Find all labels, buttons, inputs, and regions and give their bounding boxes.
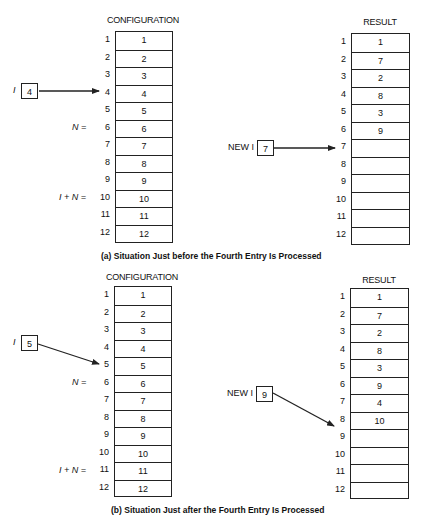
row-index: 10 xyxy=(93,444,109,462)
array-cell: 1 xyxy=(116,32,172,50)
pointer-new-i-box: 7 xyxy=(257,140,274,156)
array-cell: 8 xyxy=(352,87,409,105)
row-index: 6 xyxy=(329,376,345,394)
row-index: 3 xyxy=(329,323,345,341)
array-cell: 6 xyxy=(116,120,172,138)
array-cell: 10 xyxy=(115,445,171,463)
result-array: 1 7 2 8 3 9 xyxy=(351,33,410,245)
array-cell: 1 xyxy=(351,289,408,307)
array-cell: 2 xyxy=(351,324,408,342)
row-index: 6 xyxy=(94,119,110,137)
array-cell xyxy=(351,447,408,465)
row-index: 4 xyxy=(329,341,345,359)
arrow-i-b xyxy=(38,344,99,364)
n-marker: N = xyxy=(72,377,86,387)
array-cell xyxy=(352,174,409,192)
array-cell: 9 xyxy=(351,377,408,395)
array-cell: 6 xyxy=(115,375,171,393)
array-cell: 8 xyxy=(351,342,408,360)
array-cell: 4 xyxy=(115,340,171,358)
row-index: 7 xyxy=(93,391,109,409)
array-cell: 11 xyxy=(115,462,171,480)
array-cell: 2 xyxy=(115,305,171,323)
row-index: 12 xyxy=(329,481,345,499)
row-index: 2 xyxy=(329,306,345,324)
row-index: 10 xyxy=(94,189,110,207)
pointer-i-box: 4 xyxy=(21,83,38,99)
row-index: 8 xyxy=(330,156,346,174)
row-index: 6 xyxy=(330,121,346,139)
configuration-array: 1 2 3 4 5 6 7 8 9 10 11 12 xyxy=(115,31,173,243)
array-cell: 7 xyxy=(115,392,171,410)
pointer-i-box: 5 xyxy=(21,335,38,351)
array-cell: 7 xyxy=(116,137,172,155)
array-cell: 1 xyxy=(352,34,409,52)
array-cell: 7 xyxy=(351,307,408,325)
pointer-new-i-label: NEW I xyxy=(228,142,254,152)
row-index: 8 xyxy=(93,409,109,427)
i-plus-n-marker: I + N = xyxy=(59,192,86,202)
row-index: 8 xyxy=(94,154,110,172)
array-cell xyxy=(352,227,409,245)
row-index: 5 xyxy=(330,103,346,121)
result-title: RESULT xyxy=(343,275,415,285)
caption-b: (b) Situation Just after the Fourth Entr… xyxy=(111,505,324,515)
array-cell: 1 xyxy=(115,287,171,305)
i-plus-n-marker: I + N = xyxy=(59,465,86,475)
array-cell: 5 xyxy=(115,357,171,375)
row-index: 11 xyxy=(93,461,109,479)
row-index: 12 xyxy=(330,226,346,244)
array-cell: 3 xyxy=(115,322,171,340)
row-index: 5 xyxy=(93,356,109,374)
row-index: 1 xyxy=(94,31,110,49)
array-cell: 12 xyxy=(115,480,171,498)
array-cell: 4 xyxy=(351,394,408,412)
array-cell: 3 xyxy=(352,104,409,122)
result-title: RESULT xyxy=(344,17,416,27)
arrow-new-i-b xyxy=(273,393,334,426)
pointer-i-label: I xyxy=(13,85,16,95)
row-index: 3 xyxy=(330,68,346,86)
array-cell: 8 xyxy=(115,410,171,428)
array-cell: 3 xyxy=(116,67,172,85)
array-cell xyxy=(352,192,409,210)
row-index: 4 xyxy=(330,86,346,104)
array-cell: 12 xyxy=(116,225,172,243)
row-index: 7 xyxy=(94,136,110,154)
row-index: 3 xyxy=(94,66,110,84)
array-cell: 9 xyxy=(115,427,171,445)
array-cell: 2 xyxy=(116,50,172,68)
array-cell xyxy=(351,464,408,482)
array-cell: 7 xyxy=(352,52,409,70)
row-index: 6 xyxy=(93,374,109,392)
array-cell: 4 xyxy=(116,85,172,103)
pointer-i-label: I xyxy=(13,337,16,347)
row-index: 1 xyxy=(93,286,109,304)
configuration-title: CONFIGURATION xyxy=(94,272,190,282)
row-index: 10 xyxy=(329,446,345,464)
pointer-new-i-label: NEW I xyxy=(227,388,253,398)
row-index: 12 xyxy=(94,224,110,242)
array-cell: 10 xyxy=(116,190,172,208)
row-index: 9 xyxy=(329,428,345,446)
row-index: 5 xyxy=(329,358,345,376)
row-index: 7 xyxy=(329,393,345,411)
array-cell xyxy=(352,139,409,157)
row-index: 4 xyxy=(93,339,109,357)
array-cell: 11 xyxy=(116,207,172,225)
array-cell xyxy=(351,429,408,447)
row-index: 1 xyxy=(330,33,346,51)
array-cell: 10 xyxy=(351,412,408,430)
row-index: 10 xyxy=(330,191,346,209)
row-index: 4 xyxy=(94,84,110,102)
array-cell: 2 xyxy=(352,69,409,87)
array-cell xyxy=(352,209,409,227)
row-index: 2 xyxy=(94,49,110,67)
row-index: 7 xyxy=(330,138,346,156)
row-index: 2 xyxy=(330,51,346,69)
array-cell: 3 xyxy=(351,359,408,377)
pointer-new-i-box: 9 xyxy=(256,386,273,402)
n-marker: N = xyxy=(72,122,86,132)
row-index: 9 xyxy=(330,173,346,191)
row-index: 5 xyxy=(94,101,110,119)
